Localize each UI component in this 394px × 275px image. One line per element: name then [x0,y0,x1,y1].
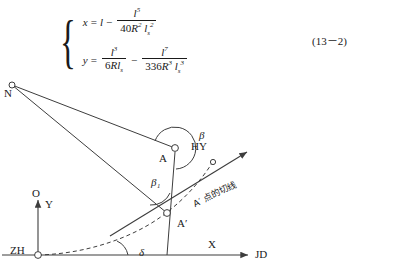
angle-label-beta: β [199,130,204,141]
axis-label-y: Y [45,199,53,210]
transition-curve-diagram [0,0,394,275]
angle-arc-delta [117,241,128,255]
point-label-zh: ZH [10,245,25,256]
point-marker-origin-zh [35,252,42,259]
point-marker-hy [210,159,215,164]
vertical-line-a-to-axis [167,152,175,255]
angle-label-delta: δ [139,247,144,258]
angle-arc-beta-1 [150,193,170,205]
point-marker-a [172,145,179,152]
point-marker-a-prime [164,210,171,217]
axis-label-origin: O [32,188,40,199]
angle-label-beta-1: β₁ [151,177,160,188]
point-label-a: A [159,153,167,164]
spiral-transition-curve [38,160,214,255]
point-label-n: N [4,88,12,99]
axis-label-jd: JD [255,249,267,260]
point-label-a-prime: A′ [177,218,187,229]
line-n-to-a [12,85,175,148]
axis-label-x: X [208,239,216,250]
point-label-hy: HY [191,141,207,152]
